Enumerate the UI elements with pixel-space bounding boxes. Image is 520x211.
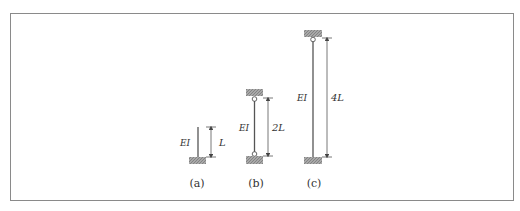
length-label: 4L [330,92,344,103]
pin-icon [252,97,257,102]
length-label: L [218,137,226,148]
length-label: 2L [271,122,285,133]
stiffness-label: EI [296,93,308,103]
caption: (c) [307,177,322,190]
column-b: EI 2L (b) [238,89,285,190]
pin-icon [311,37,316,42]
fixed-support-icon [304,157,322,164]
stiffness-label: EI [238,123,250,133]
bottom-support-icon [246,156,263,164]
stiffness-label: EI [179,138,191,148]
column-c: EI 4L (c) [296,30,344,190]
top-support-icon [246,89,263,96]
column-diagram: EI L (a) EI 2L (b) EI 4L (c) [0,0,520,211]
pin-icon [252,152,257,157]
caption: (a) [189,177,204,190]
fixed-support-icon [189,157,206,164]
caption: (b) [248,177,264,190]
top-support-icon [304,30,322,37]
column-a: EI L (a) [179,127,226,190]
dimension-line [206,127,216,157]
